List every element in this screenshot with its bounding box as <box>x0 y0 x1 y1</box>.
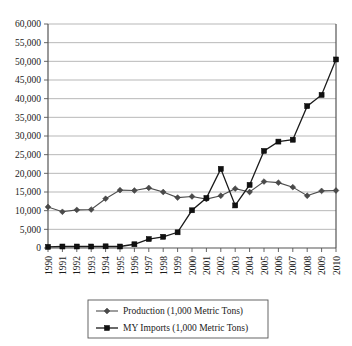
x-tick-label: 1991 <box>58 256 68 275</box>
data-point-marker <box>60 244 65 249</box>
legend-label: MY Imports (1,000 Metric Tons) <box>123 323 248 334</box>
data-point-marker <box>46 244 51 249</box>
x-tick-label: 2005 <box>260 256 270 275</box>
data-point-marker <box>333 188 339 194</box>
x-tick-label: 1999 <box>173 256 183 275</box>
y-tick-label: 0 <box>36 243 41 253</box>
legend-label: Production (1,000 Metric Tons) <box>123 306 243 317</box>
x-tick-label: 2004 <box>245 256 255 275</box>
data-point-marker <box>146 185 152 191</box>
data-point-marker <box>304 193 310 199</box>
chart-legend: Production (1,000 Metric Tons)MY Imports… <box>88 300 268 338</box>
x-tick-label: 2008 <box>303 256 313 275</box>
data-point-marker <box>175 230 180 235</box>
data-point-marker <box>204 195 209 200</box>
data-point-marker <box>190 208 195 213</box>
data-point-marker <box>175 195 181 201</box>
data-point-marker <box>305 104 310 109</box>
data-point-marker <box>74 207 80 213</box>
x-tick-label: 2009 <box>317 256 327 275</box>
x-tick-label: 1992 <box>72 256 82 275</box>
y-tick-label: 5,000 <box>20 225 42 235</box>
data-point-marker <box>103 244 108 249</box>
data-point-marker <box>74 244 79 249</box>
x-tick-label: 1996 <box>130 256 140 275</box>
data-point-marker <box>290 137 295 142</box>
y-tick-label: 25,000 <box>15 150 41 160</box>
x-tick-label: 2000 <box>188 256 198 275</box>
x-tick-label: 2001 <box>202 256 212 275</box>
y-tick-label: 60,000 <box>15 19 41 29</box>
y-tick-label: 10,000 <box>15 206 41 216</box>
x-tick-label: 2006 <box>274 256 284 275</box>
series-line <box>48 59 336 246</box>
y-axis-ticks-group: 05,00010,00015,00020,00025,00030,00035,0… <box>15 19 48 253</box>
x-tick-label: 2002 <box>216 256 226 275</box>
y-tick-label: 50,000 <box>15 57 41 67</box>
data-point-marker <box>319 188 325 194</box>
data-point-marker <box>161 234 166 239</box>
data-point-marker <box>105 326 110 331</box>
data-point-marker <box>132 242 137 247</box>
data-point-marker <box>189 194 195 200</box>
data-point-marker <box>319 92 324 97</box>
y-tick-label: 15,000 <box>15 187 41 197</box>
series-my-imports <box>46 57 339 249</box>
data-point-marker <box>276 180 282 186</box>
data-point-marker <box>146 237 151 242</box>
data-point-marker <box>290 184 296 190</box>
y-tick-label: 20,000 <box>15 169 41 179</box>
data-point-marker <box>118 244 123 249</box>
x-tick-label: 1998 <box>159 256 169 275</box>
chart-figure: 05,00010,00015,00020,00025,00030,00035,0… <box>0 0 352 346</box>
data-point-marker <box>247 182 252 187</box>
data-point-marker <box>232 186 238 192</box>
x-tick-label: 1994 <box>101 256 111 275</box>
data-point-marker <box>218 193 224 199</box>
x-tick-label: 2010 <box>332 256 342 275</box>
y-tick-label: 45,000 <box>15 75 41 85</box>
x-tick-label: 1990 <box>44 256 54 275</box>
x-axis-ticks-group: 1990199119921993199419951996199719981999… <box>44 248 342 275</box>
data-point-marker <box>276 139 281 144</box>
data-point-marker <box>233 203 238 208</box>
data-point-marker <box>160 189 166 195</box>
data-point-marker <box>89 244 94 249</box>
data-point-marker <box>45 204 51 210</box>
data-point-marker <box>262 148 267 153</box>
data-series-group <box>45 57 339 249</box>
x-tick-label: 1995 <box>116 256 126 275</box>
x-tick-label: 2007 <box>288 256 298 275</box>
line-chart: 05,00010,00015,00020,00025,00030,00035,0… <box>0 0 352 346</box>
x-tick-label: 1993 <box>87 256 97 275</box>
data-point-marker <box>60 209 66 215</box>
data-point-marker <box>334 57 339 62</box>
y-tick-label: 55,000 <box>15 38 41 48</box>
y-tick-label: 35,000 <box>15 113 41 123</box>
x-tick-label: 2003 <box>231 256 241 275</box>
data-point-marker <box>132 188 138 194</box>
y-tick-label: 40,000 <box>15 94 41 104</box>
data-point-marker <box>218 166 223 171</box>
x-tick-label: 1997 <box>144 256 154 275</box>
y-tick-label: 30,000 <box>15 131 41 141</box>
